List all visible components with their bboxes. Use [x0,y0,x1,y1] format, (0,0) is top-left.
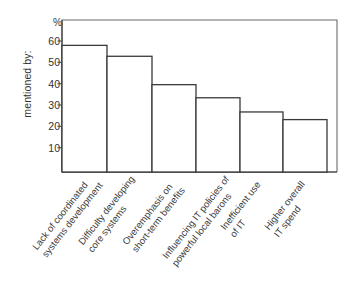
bar-chart: mentioned by: % 60 50 40 30 20 10 [0,0,353,295]
x-axis-tick-labels: Lack of coordinated systems development … [0,0,353,295]
x-label-6: Higher overall IT spend [262,179,316,239]
